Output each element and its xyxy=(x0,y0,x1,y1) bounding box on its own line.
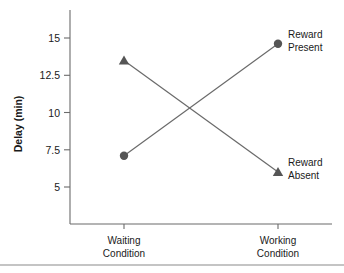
data-point-reward-present-working xyxy=(274,40,282,48)
y-tick-label-10: 10 xyxy=(48,107,60,119)
y-axis-ticks xyxy=(64,38,70,187)
legend-reward-absent-line2: Absent xyxy=(288,170,319,181)
line-chart: 15 12.5 10 7.5 5 Delay (min) Waiting Con… xyxy=(0,0,344,273)
chart-figure: 15 12.5 10 7.5 5 Delay (min) Waiting Con… xyxy=(0,0,344,273)
data-point-reward-absent-waiting xyxy=(119,55,129,64)
series-line-reward-absent xyxy=(124,60,278,172)
x-tick-label-working-line2: Condition xyxy=(257,248,299,259)
legend-reward-present-line2: Present xyxy=(288,42,323,53)
data-point-reward-absent-working xyxy=(273,167,283,176)
legend-reward-absent-line1: Reward xyxy=(288,157,322,168)
y-axis-title: Delay (min) xyxy=(12,96,24,153)
x-axis-ticks xyxy=(124,224,278,229)
y-tick-label-15: 15 xyxy=(48,32,60,44)
y-tick-label-7-5: 7.5 xyxy=(45,144,60,156)
x-tick-label-waiting-line2: Condition xyxy=(103,248,145,259)
y-tick-label-5: 5 xyxy=(54,181,60,193)
x-tick-label-waiting-line1: Waiting xyxy=(108,235,141,246)
legend-reward-present-line1: Reward xyxy=(288,29,322,40)
series-line-reward-present xyxy=(124,44,278,156)
x-tick-label-working-line1: Working xyxy=(260,235,297,246)
data-point-reward-present-waiting xyxy=(120,152,128,160)
y-tick-label-12-5: 12.5 xyxy=(40,69,61,81)
